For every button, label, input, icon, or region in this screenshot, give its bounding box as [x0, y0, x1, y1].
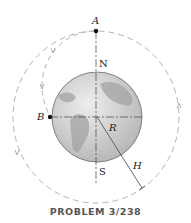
arrow-icon — [15, 150, 19, 155]
label-b: B — [37, 112, 44, 122]
label-s: S — [99, 167, 106, 177]
point-b — [48, 115, 52, 119]
problem-caption: PROBLEM 3/238 — [0, 206, 191, 217]
arrow-icon — [177, 103, 181, 108]
label-a: A — [92, 16, 99, 26]
label-r: R — [109, 123, 117, 133]
orbit-diagram — [0, 0, 191, 223]
h-tick — [139, 186, 145, 190]
label-n: N — [99, 59, 108, 69]
arrow-icon — [51, 48, 55, 53]
label-h: H — [133, 161, 142, 171]
point-a — [94, 29, 98, 33]
